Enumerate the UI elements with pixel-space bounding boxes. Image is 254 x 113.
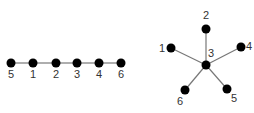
path-graph-node-label-5: 5 <box>8 68 14 80</box>
graph-diagram-canvas: 512346321465 <box>0 0 254 113</box>
star-graph-node-6 <box>181 86 190 95</box>
nodes-layer <box>7 25 246 95</box>
path-graph-node-label-2: 2 <box>53 68 59 80</box>
star-graph-edge-3-1 <box>171 48 206 65</box>
star-graph-node-label-3: 3 <box>208 47 214 59</box>
star-graph-node-1 <box>167 44 176 53</box>
path-graph-node-label-6: 6 <box>118 68 124 80</box>
edges-layer <box>11 29 241 90</box>
path-graph-node-1 <box>29 59 38 68</box>
path-graph-node-3 <box>73 59 82 68</box>
star-graph-edge-3-6 <box>185 65 206 90</box>
path-graph-node-4 <box>95 59 104 68</box>
star-graph-node-label-1: 1 <box>159 42 165 54</box>
path-graph-node-2 <box>52 59 61 68</box>
star-graph-node-label-6: 6 <box>177 95 183 107</box>
path-graph-node-6 <box>117 59 126 68</box>
path-graph-node-5 <box>7 59 16 68</box>
path-graph-node-label-3: 3 <box>74 68 80 80</box>
star-graph-node-3 <box>202 61 211 70</box>
star-graph-node-label-2: 2 <box>203 9 209 21</box>
labels-layer: 512346321465 <box>8 9 252 107</box>
star-graph-node-4 <box>237 43 246 52</box>
star-graph-edge-3-5 <box>206 65 227 89</box>
star-graph-node-2 <box>202 25 211 34</box>
star-graph-node-label-4: 4 <box>246 40 252 52</box>
star-graph-node-label-5: 5 <box>231 92 237 104</box>
path-graph-node-label-4: 4 <box>96 68 102 80</box>
path-graph-node-label-1: 1 <box>30 68 36 80</box>
